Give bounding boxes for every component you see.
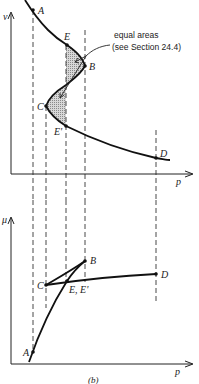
mu-branch-a-b <box>29 261 85 362</box>
v-axis-label: v <box>3 11 8 22</box>
p-axis-bottom-label: p <box>174 366 180 377</box>
point-label-a-top: A <box>37 5 45 16</box>
bottom-points <box>31 259 158 354</box>
point-label-a-bottom: A <box>22 347 30 358</box>
point-label-d-bottom: D <box>160 269 169 280</box>
dashed-guides-bottom <box>33 200 156 352</box>
point-label-e-e-prime-bottom: E, E' <box>68 284 89 295</box>
top-plot: v p A E B C E' D equal areas (see Sectio… <box>3 0 193 200</box>
p-axis-top-label: p <box>175 176 181 187</box>
mu-axis-label: μ <box>1 214 7 225</box>
isotherm-curve <box>25 0 170 160</box>
annotation-line1: equal areas <box>114 30 158 40</box>
point-label-c-bottom: C <box>37 280 44 291</box>
point-label-d-top: D <box>159 148 168 159</box>
point-label-e-prime-top: E' <box>53 126 63 137</box>
point-label-c-top: C <box>37 101 44 112</box>
bottom-plot: μ p A B C E, E' D (b) <box>1 200 193 384</box>
point-label-b-bottom: B <box>90 255 96 266</box>
annotation-line2: (see Section 24.4) <box>112 42 181 52</box>
point-label-e-top: E <box>63 31 70 42</box>
figure-caption: (b) <box>88 375 99 384</box>
point-label-b-top: B <box>89 61 95 72</box>
figure-canvas: v p A E B C E' D equal areas (see Sectio… <box>0 0 199 384</box>
